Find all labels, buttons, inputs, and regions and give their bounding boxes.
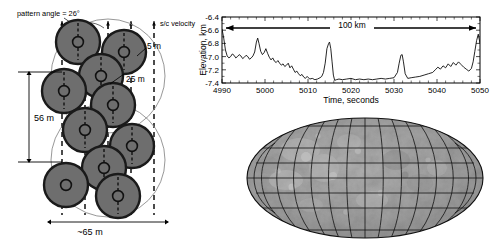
spot-10 bbox=[96, 174, 140, 218]
spot-diameter-label: 5 m bbox=[147, 41, 161, 51]
x-tick-label: 5020 bbox=[342, 86, 360, 95]
x-tick-labels: 4990 5000 5010 5020 5030 5040 5050 bbox=[213, 86, 489, 95]
y-tick-label: -6.4 bbox=[205, 13, 219, 22]
spot-4 bbox=[42, 69, 86, 113]
cross-track-dimension bbox=[47, 220, 169, 225]
elevation-profile-panel: -6.4 -6.6 -6.8 -7.0 -7.2 -7.4 4990 5000 … bbox=[198, 13, 489, 105]
spot-spacing-label: 25 m bbox=[126, 74, 145, 84]
x-tick-label: 5050 bbox=[471, 86, 489, 95]
figure-root: pattern angle = 26° s/c velocity bbox=[0, 0, 495, 242]
x-tick-label: 4990 bbox=[213, 86, 231, 95]
span-annotation-label: 100 km bbox=[338, 20, 365, 30]
x-tick-label: 5010 bbox=[299, 86, 317, 95]
pattern-angle-label: pattern angle = 26° bbox=[17, 9, 80, 18]
cross-track-label: ~65 m bbox=[77, 227, 102, 237]
figure-canvas: pattern angle = 26° s/c velocity bbox=[0, 0, 495, 242]
along-track-label: 56 m bbox=[34, 113, 54, 123]
x-tick-label: 5040 bbox=[428, 86, 446, 95]
laser-spots-lower bbox=[44, 108, 154, 218]
lunar-map-panel bbox=[247, 118, 483, 238]
x-tick-label: 5000 bbox=[256, 86, 274, 95]
y-axis-title: Elevation, km bbox=[198, 24, 208, 76]
sc-velocity-label: s/c velocity bbox=[160, 19, 196, 28]
x-axis-title: Time, seconds bbox=[323, 95, 379, 105]
spot-9 bbox=[44, 163, 88, 207]
x-tick-label: 5030 bbox=[385, 86, 403, 95]
spot-pattern-panel: pattern angle = 26° s/c velocity bbox=[17, 9, 196, 237]
